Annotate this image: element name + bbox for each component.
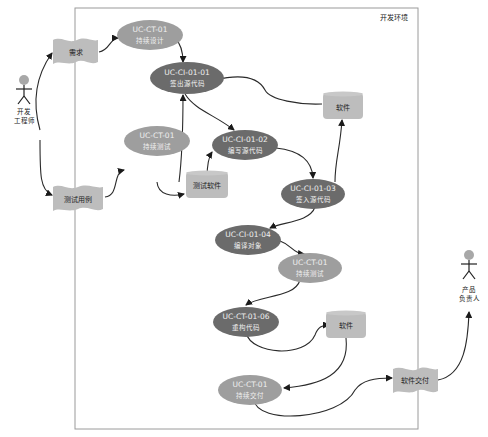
actor-label-line2: 工程师 [14, 116, 35, 125]
usecase-continuous-test-1: UC-CT-01 持续测试 [124, 126, 190, 156]
actor-label-line1: 产品 [462, 285, 476, 294]
svg-text:需求: 需求 [69, 48, 83, 57]
usecase-checkin-source: UC-CI-01-03 签入源代码 [281, 179, 345, 209]
usecase-continuous-test-2: UC-CT-01 持续测试 [278, 253, 342, 283]
usecase-continuous-delivery: UC-CT-01 持续交付 [218, 375, 282, 405]
artifact-software-2: 软件 [326, 311, 366, 339]
artifact-software-1: 软件 [323, 92, 363, 120]
usecase-refactor-code: UC-CT-01-06 重构代码 [213, 307, 279, 337]
svg-text:持续测试: 持续测试 [143, 142, 171, 151]
artifact-test-software: 测试软件 [186, 171, 228, 199]
svg-text:持续测试: 持续测试 [296, 269, 324, 278]
svg-text:UC-CI-01-04: UC-CI-01-04 [225, 230, 271, 239]
svg-text:签入源代码: 签入源代码 [296, 195, 331, 204]
environment-boundary [75, 8, 418, 429]
document-test-cases: 测试用例 [53, 186, 103, 211]
svg-text:编写源代码: 编写源代码 [228, 146, 263, 155]
svg-text:UC-CT-01: UC-CT-01 [293, 258, 328, 267]
svg-text:UC-CT-01: UC-CT-01 [140, 131, 175, 140]
actor-product-owner: 产品 负责人 [459, 250, 480, 303]
svg-text:UC-CT-01-06: UC-CT-01-06 [222, 312, 269, 321]
svg-text:UC-CI-01-02: UC-CI-01-02 [222, 135, 268, 144]
usecase-compile-objects: UC-CI-01-04 编译对象 [215, 225, 281, 255]
usecase-continuous-design: UC-CT-01 持续设计 [117, 20, 183, 50]
svg-text:UC-CT-01: UC-CT-01 [233, 380, 268, 389]
svg-text:UC-CI-01-01: UC-CI-01-01 [164, 68, 210, 77]
actor-head-icon [19, 75, 29, 85]
svg-text:重构代码: 重构代码 [232, 323, 260, 332]
svg-text:测试软件: 测试软件 [193, 181, 221, 190]
svg-text:软件交付: 软件交付 [401, 376, 429, 385]
actor-label-line1: 开发 [17, 107, 31, 116]
svg-text:UC-CT-01: UC-CT-01 [133, 25, 168, 34]
svg-text:持续交付: 持续交付 [236, 391, 264, 400]
usecase-checkout-source: UC-CI-01-01 签出源代码 [150, 62, 224, 94]
actor-developer: 开发 工程师 [14, 75, 35, 125]
usecase-write-source: UC-CI-01-02 编写源代码 [212, 130, 278, 160]
svg-text:软件: 软件 [336, 103, 350, 112]
svg-text:UC-CI-01-03: UC-CI-01-03 [290, 184, 336, 193]
svg-text:测试用例: 测试用例 [64, 195, 92, 204]
svg-text:签出源代码: 签出源代码 [170, 79, 205, 88]
svg-text:软件: 软件 [339, 321, 353, 330]
environment-label: 开发环境 [380, 13, 408, 22]
document-software-delivery: 软件交付 [393, 368, 438, 393]
document-requirements: 需求 [53, 39, 98, 64]
actor-head-icon [464, 250, 474, 260]
svg-text:编译对象: 编译对象 [234, 241, 262, 250]
svg-text:持续设计: 持续设计 [136, 36, 164, 45]
dev-environment-diagram: 开发环境 开发 工程师 产品 负 [0, 0, 488, 437]
actor-label-line2: 负责人 [459, 294, 480, 303]
